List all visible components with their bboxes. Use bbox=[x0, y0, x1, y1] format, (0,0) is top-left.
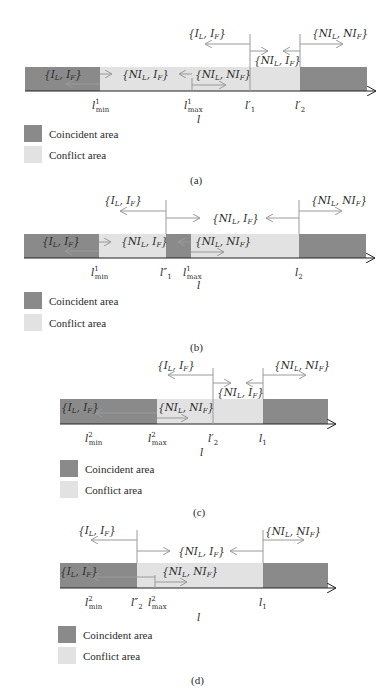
regions-diagram: {IL, IF} {NIL, IF} {NIL, NIF} {IL, IF} {… bbox=[0, 0, 390, 694]
panel-caption: (d) bbox=[191, 674, 204, 687]
axis-variable-label: l bbox=[197, 611, 200, 623]
set-label: {IL, IF} bbox=[60, 565, 98, 579]
set-label: {IL, IF} bbox=[104, 194, 142, 208]
tick-label-l-1: l1 bbox=[259, 432, 267, 447]
panel-caption: (a) bbox=[190, 174, 203, 187]
set-label: {NIL, NIF} bbox=[312, 27, 368, 41]
tick-label-l1-min: l1min bbox=[91, 265, 109, 281]
legend-label-coincident: Coincident area bbox=[85, 463, 154, 475]
legend-label-coincident: Coincident area bbox=[49, 128, 118, 140]
tick-label-l2-max: l2max bbox=[148, 595, 167, 611]
panel-a: {IL, IF} {NIL, IF} {NIL, NIF} {IL, IF} {… bbox=[24, 27, 376, 187]
tick-label-l2-min: l2min bbox=[85, 431, 103, 447]
set-label: {NIL, IF} bbox=[254, 54, 301, 68]
legend-swatch-conflict bbox=[58, 647, 76, 664]
set-label: {NIL, IF} bbox=[178, 545, 225, 559]
tick-label-l2-max: l2max bbox=[148, 431, 167, 447]
panel-c: {IL, IF} {NIL, NIF} {IL, IF} {NIL, IF} {… bbox=[60, 359, 336, 519]
legend-label-conflict: Conflict area bbox=[83, 650, 140, 662]
tick-label-l-1: l1 bbox=[259, 596, 267, 611]
set-label: {NIL, NIF} bbox=[265, 525, 321, 539]
legend-swatch-coincident bbox=[24, 125, 42, 142]
legend-swatch-conflict bbox=[24, 146, 42, 163]
panel-caption: (b) bbox=[190, 341, 203, 354]
panel-b: {IL, IF} {NIL, IF} {NIL, NIF} {IL, IF} {… bbox=[24, 194, 375, 354]
tick-label-ldprime-1: l″1 bbox=[160, 266, 172, 281]
legend-label-coincident: Coincident area bbox=[49, 295, 118, 307]
panel-d: {IL, IF} {NIL, NIF} {IL, IF} {NIL, IF} {… bbox=[58, 524, 336, 687]
set-label: {NIL, IF} bbox=[217, 386, 264, 400]
coincident-region bbox=[299, 234, 366, 258]
tick-label-lprime-2: l′2 bbox=[295, 99, 305, 114]
set-label: {IL, IF} bbox=[44, 68, 82, 82]
coincident-region bbox=[166, 234, 191, 258]
legend-swatch-coincident bbox=[60, 460, 78, 477]
set-label: {NIL, IF} bbox=[212, 212, 259, 226]
set-label: {NIL, NIF} bbox=[274, 359, 330, 373]
coincident-region bbox=[263, 563, 328, 588]
tick-label-l1-max: l1max bbox=[184, 98, 203, 114]
set-label: {IL, IF} bbox=[42, 235, 80, 249]
axis-variable-label: l bbox=[197, 279, 200, 291]
set-label: {IL, IF} bbox=[157, 359, 195, 373]
legend-label-conflict: Conflict area bbox=[85, 484, 142, 496]
set-label: {IL, IF} bbox=[78, 524, 116, 538]
coincident-region bbox=[300, 67, 367, 91]
panel-caption: (c) bbox=[193, 506, 206, 519]
axis-variable-label: l bbox=[197, 113, 200, 125]
legend-swatch-coincident bbox=[58, 626, 76, 643]
set-label: {IL, IF} bbox=[188, 27, 226, 41]
legend-swatch-conflict bbox=[60, 481, 78, 498]
set-label: {NIL, NIF} bbox=[311, 194, 367, 208]
tick-label-lprime-1: l′1 bbox=[245, 99, 255, 114]
tick-label-l1-min: l1min bbox=[92, 98, 110, 114]
coincident-region bbox=[263, 399, 328, 424]
legend-swatch-coincident bbox=[24, 292, 42, 309]
tick-label-lprime-2: l′2 bbox=[208, 432, 218, 447]
tick-label-l-2: l2 bbox=[295, 266, 303, 281]
legend-label-conflict: Conflict area bbox=[49, 317, 106, 329]
legend-label-coincident: Coincident area bbox=[83, 629, 152, 641]
tick-label-l2-min: l2min bbox=[85, 595, 103, 611]
legend-swatch-conflict bbox=[24, 314, 42, 331]
set-label: {IL, IF} bbox=[61, 401, 99, 415]
axis-variable-label: l bbox=[200, 446, 203, 458]
legend-label-conflict: Conflict area bbox=[49, 149, 106, 161]
tick-label-ldprime-2: l″2 bbox=[131, 596, 143, 611]
